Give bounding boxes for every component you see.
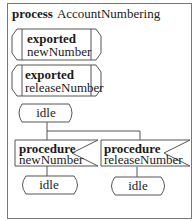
- svg-text:newNumber: newNumber: [19, 152, 84, 167]
- svg-text:idle: idle: [128, 178, 148, 193]
- next-state-idle-2[interactable]: idle: [112, 177, 165, 195]
- svg-text:idle: idle: [36, 105, 56, 120]
- svg-text:idle: idle: [39, 177, 59, 192]
- next-state-idle-1[interactable]: idle: [23, 176, 78, 194]
- svg-text:newNumber: newNumber: [27, 44, 92, 59]
- frame-title: processAccountNumbering: [12, 6, 161, 21]
- start-state-idle[interactable]: idle: [19, 104, 72, 122]
- process-diagram: processAccountNumbering exported release…: [0, 0, 194, 221]
- input-procedure-releaseNumber[interactable]: procedure releaseNumber: [101, 140, 190, 167]
- exported-procedure-releaseNumber[interactable]: exported releaseNumber: [12, 65, 104, 96]
- exported-procedure-newNumber[interactable]: exported releaseNumber newNumber: [12, 29, 101, 60]
- svg-text:releaseNumber: releaseNumber: [25, 80, 104, 95]
- svg-text:releaseNumber: releaseNumber: [104, 152, 183, 167]
